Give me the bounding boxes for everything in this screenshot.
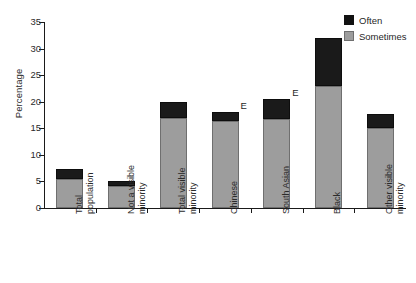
plot-area: 05101520253035 EE [44, 22, 406, 208]
legend-item-often: Often [344, 14, 407, 26]
y-tick-label-15: 15 [1, 122, 41, 133]
chart-legend: OftenSometimes [344, 14, 407, 46]
y-axis-line [44, 22, 45, 208]
x-label-line-1: Chinese [229, 181, 239, 214]
bar-segment-often [367, 114, 394, 128]
x-tick-6 [354, 208, 355, 213]
x-label-line-1: Total visible [177, 167, 187, 214]
annotation-e-south-asian: E [292, 87, 298, 98]
y-tick-label-10: 10 [1, 149, 41, 160]
x-label-line-1: Total [74, 195, 84, 214]
annotation-e-chinese: E [241, 100, 247, 111]
legend-label-sometimes: Sometimes [359, 31, 407, 42]
x-category-label-black: Black [332, 192, 343, 214]
y-tick-label-5: 5 [1, 175, 41, 186]
bar-chart: Percentage 05101520253035 EE Totalpopula… [0, 0, 416, 283]
x-category-label-not-a-visible-minority: Not a visibleminority [126, 165, 147, 214]
x-label-line-2: minority [188, 167, 199, 214]
y-tick-label-25: 25 [1, 69, 41, 80]
y-tick-label-35: 35 [1, 16, 41, 27]
x-label-line-2: minority [136, 165, 147, 214]
x-tick-1 [96, 208, 97, 213]
x-tick-4 [251, 208, 252, 213]
legend-label-often: Often [359, 15, 382, 26]
x-label-line-1: Black [332, 192, 342, 214]
x-label-line-2: population [84, 172, 95, 214]
y-tick-label-0: 0 [1, 202, 41, 213]
x-category-label-other-visible-minority: Other visibleminority [384, 164, 405, 214]
bar-segment-often [212, 112, 239, 121]
bar-segment-often [160, 102, 187, 118]
y-tick-label-20: 20 [1, 96, 41, 107]
x-tick-5 [303, 208, 304, 213]
y-tick-label-30: 30 [1, 43, 41, 54]
bar-segment-often [263, 99, 290, 119]
legend-item-sometimes: Sometimes [344, 30, 407, 42]
bar-black [315, 38, 342, 208]
x-axis-line [44, 208, 406, 209]
x-category-label-south-asian: South Asian [281, 166, 292, 214]
x-tick-3 [199, 208, 200, 213]
x-label-line-1: Other visible [384, 164, 394, 214]
x-label-line-1: South Asian [281, 166, 291, 214]
bar-segment-often [315, 38, 342, 86]
legend-swatch-sometimes [344, 31, 354, 41]
bar-segment-sometimes [315, 86, 342, 208]
x-category-label-total-visible-minority: Total visibleminority [177, 167, 198, 214]
x-label-line-1: Not a visible [126, 165, 136, 214]
x-category-label-chinese: Chinese [229, 181, 240, 214]
x-tick-2 [147, 208, 148, 213]
x-label-line-2: minority [395, 164, 406, 214]
legend-swatch-often [344, 15, 354, 25]
x-category-label-total-population: Totalpopulation [74, 172, 95, 214]
